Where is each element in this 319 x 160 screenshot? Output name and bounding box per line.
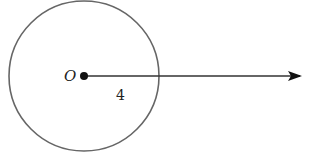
diagram: O 4	[0, 0, 319, 160]
center-point	[80, 72, 88, 80]
center-label: O	[64, 67, 76, 85]
radius-label: 4	[116, 87, 125, 103]
